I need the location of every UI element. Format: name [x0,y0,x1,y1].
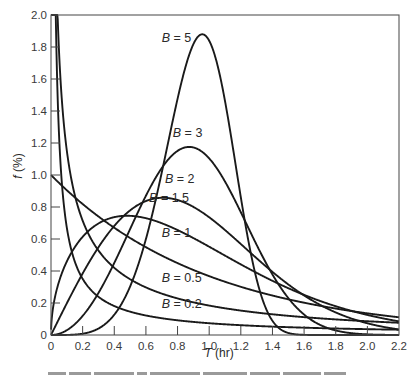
weibull-density-chart: 00.20.40.60.81.01.21.41.61.82.0 00.20.40… [0,0,416,377]
curve-b-0-5 [51,15,399,323]
x-tick-label: 2.2 [391,340,407,352]
y-axis-title: f (%) [11,153,25,178]
x-tick-label: 1.4 [264,340,281,352]
plot-frame [51,15,399,335]
y-tick-label: 2.0 [31,9,47,21]
y-tick-label: 0.4 [31,265,48,277]
y-tick-label: 0.6 [31,233,47,245]
curve-b-5 [51,34,399,335]
x-tick-label: 1.8 [328,340,344,352]
curve-label: B = 5 [162,31,192,45]
x-axis-title: T (hr) [204,346,233,360]
y-tick-label: 0 [41,329,47,341]
y-tick-label: 1.8 [31,41,47,53]
y-tick-label: 0.2 [31,297,47,309]
x-tick-label: 0.6 [138,340,154,352]
curve-group [51,15,399,335]
curve-b-1-5 [51,216,399,330]
y-tick-label: 0.8 [31,201,47,213]
x-tick-label: 1.6 [296,340,312,352]
curve-label: B = 2 [165,172,195,186]
curve-b-1 [51,175,399,317]
curve-label: B = 1.5 [149,191,189,205]
x-tick-label: 0.8 [170,340,186,352]
y-tick-label: 1.6 [31,73,47,85]
x-tick-label: 1.2 [233,340,249,352]
curve-labels: B = 5B = 3B = 2B = 1.5B = 1B = 0.5B = 0.… [149,31,202,311]
y-tick-label: 1.0 [31,169,47,181]
y-tick-label: 1.4 [31,105,48,117]
figure-caption-clipped [48,372,378,377]
y-tick-label: 1.2 [31,137,47,149]
x-tick-label: 2.0 [359,340,375,352]
curve-b-2 [51,198,399,335]
curve-label: B = 1 [162,226,192,240]
curve-label: B = 0.5 [162,271,202,285]
curve-label: B = 3 [173,126,203,140]
x-tick-label: 0.4 [106,340,123,352]
x-tick-label: 0 [48,340,54,352]
x-tick-label: 0.2 [75,340,91,352]
curve-label: B = 0.2 [162,297,202,311]
